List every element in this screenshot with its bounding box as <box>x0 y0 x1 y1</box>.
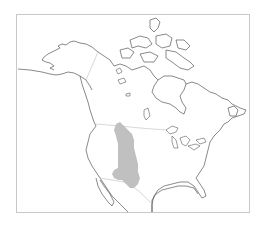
interior-lakes <box>116 68 150 120</box>
arctic-coastline <box>98 52 158 80</box>
hudson-bay-coastline <box>152 76 186 114</box>
arctic-islands <box>120 18 194 70</box>
great-lakes <box>166 126 206 150</box>
alaska-coastline <box>18 41 98 90</box>
baja-california <box>96 178 114 206</box>
east-coastline <box>152 82 246 212</box>
newfoundland <box>228 106 238 116</box>
us-canada-border <box>96 124 166 130</box>
gulf-coastline <box>152 186 198 212</box>
species-range-shaded-area <box>112 122 140 188</box>
alaska-canada-border <box>86 52 98 80</box>
north-america-map <box>0 0 261 228</box>
